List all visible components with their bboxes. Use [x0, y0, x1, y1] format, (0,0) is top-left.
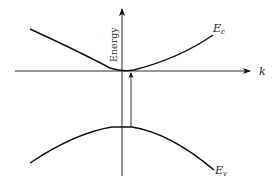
conduction-band-label: Ec — [212, 22, 225, 36]
energy-axis-label: Energy — [108, 27, 119, 62]
valence-band-label: Ev — [214, 164, 227, 178]
band-diagram: Energy k Ec Ev — [0, 0, 279, 183]
conduction-band-label-main: E — [212, 22, 221, 35]
k-axis-label: k — [259, 65, 266, 78]
conduction-band-curve — [30, 29, 213, 71]
valence-band-label-main: E — [214, 164, 223, 177]
conduction-band-label-sub: c — [221, 28, 225, 36]
valence-band-label-sub: v — [223, 170, 227, 178]
